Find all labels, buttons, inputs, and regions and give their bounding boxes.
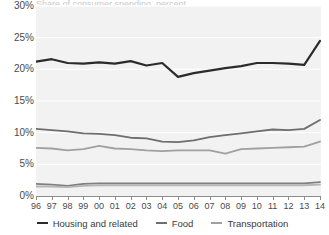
x-axis-tick — [36, 196, 37, 200]
x-axis-tick — [131, 196, 132, 200]
chart-legend: Housing and relatedFoodTransportation — [0, 215, 325, 231]
legend-item[interactable]: Transportation — [211, 218, 288, 229]
y-axis-tick-label: 5% — [4, 159, 34, 169]
y-axis-tick-label: 20% — [4, 64, 34, 74]
x-axis-tick — [52, 196, 53, 200]
x-axis: 96979899000102030405060708091011121314 — [36, 196, 321, 212]
y-axis-tick-label: 10% — [4, 128, 34, 138]
x-axis-tick — [68, 196, 69, 200]
x-axis-tick — [162, 196, 163, 200]
x-axis-tick — [146, 196, 147, 200]
x-axis-tick — [194, 196, 195, 200]
y-axis-tick-label: 0% — [4, 191, 34, 201]
x-axis-tick-label: 14 — [311, 201, 329, 211]
x-axis-tick — [273, 196, 274, 200]
series-line — [36, 120, 320, 142]
plot-area — [36, 6, 321, 196]
legend-item[interactable]: Food — [156, 218, 194, 229]
plot-svg — [36, 6, 321, 196]
y-axis-tick-label: 25% — [4, 33, 34, 43]
x-axis-tick — [178, 196, 179, 200]
legend-swatch-icon — [156, 222, 167, 224]
x-axis-tick — [225, 196, 226, 200]
legend-swatch-icon — [37, 222, 48, 224]
x-axis-tick — [83, 196, 84, 200]
x-axis-tick — [304, 196, 305, 200]
legend-label: Housing and related — [53, 218, 138, 229]
x-axis-tick — [115, 196, 116, 200]
chart-title-remnant: Share of consumer spending, percent — [36, 0, 266, 5]
series-line — [36, 142, 320, 154]
x-axis-tick — [288, 196, 289, 200]
y-axis-tick-label: 30% — [4, 1, 34, 11]
legend-label: Transportation — [227, 218, 288, 229]
y-axis-tick-label: 15% — [4, 96, 34, 106]
x-axis-tick — [241, 196, 242, 200]
x-axis-tick — [99, 196, 100, 200]
x-axis-tick — [257, 196, 258, 200]
x-axis-tick — [210, 196, 211, 200]
legend-label: Food — [172, 218, 194, 229]
legend-item[interactable]: Housing and related — [37, 218, 138, 229]
legend-swatch-icon — [211, 222, 222, 224]
y-axis: 0%5%10%15%20%25%30% — [0, 0, 34, 200]
x-axis-tick — [320, 196, 321, 200]
series-line — [36, 41, 320, 77]
